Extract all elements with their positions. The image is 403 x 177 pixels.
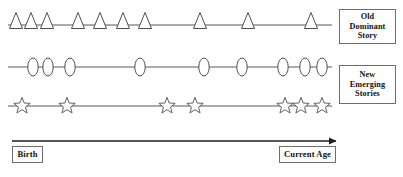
narrative-timeline-diagram: Old Dominant Story New Emerging Stories … (0, 0, 403, 177)
marker-triangle-old-dominant-story-9 (242, 13, 255, 29)
label-current-age: Current Age (279, 146, 336, 163)
label-current-age-text: Current Age (284, 149, 331, 159)
marker-star-emerging-stories-stars-4 (187, 97, 203, 113)
marker-star-emerging-stories-stars-1 (14, 97, 30, 113)
timeline-row-emerging-stories-stars (8, 97, 332, 113)
marker-triangle-old-dominant-story-7 (139, 13, 152, 29)
timeline-row-new-emerging-stories (8, 58, 332, 76)
marker-triangle-old-dominant-story-6 (117, 13, 130, 29)
marker-oval-new-emerging-stories-4 (135, 58, 145, 76)
marker-oval-new-emerging-stories-6 (237, 58, 247, 76)
label-new-emerging-stories: New Emerging Stories (339, 65, 396, 104)
marker-triangle-old-dominant-story-1 (10, 13, 23, 29)
label-old-dominant-story: Old Dominant Story (339, 9, 396, 44)
marker-oval-new-emerging-stories-9 (317, 58, 327, 76)
marker-triangle-old-dominant-story-4 (72, 13, 85, 29)
marker-star-emerging-stories-stars-5 (277, 97, 293, 113)
label-new-emerging-stories-line-2: Emerging (350, 80, 385, 90)
label-old-dominant-story-line-2: Dominant (350, 22, 386, 32)
marker-oval-new-emerging-stories-2 (43, 58, 53, 76)
marker-triangle-old-dominant-story-5 (94, 13, 107, 29)
marker-star-emerging-stories-stars-2 (59, 97, 75, 113)
label-birth-text: Birth (17, 149, 37, 159)
label-new-emerging-stories-line-3: Stories (355, 89, 380, 99)
marker-star-emerging-stories-stars-6 (293, 97, 309, 113)
marker-triangle-old-dominant-story-8 (194, 13, 207, 29)
label-old-dominant-story-line-1: Old (361, 12, 375, 22)
marker-triangle-old-dominant-story-10 (305, 13, 318, 29)
timeline-row-old-dominant-story (8, 13, 332, 29)
marker-star-emerging-stories-stars-7 (314, 97, 330, 113)
marker-oval-new-emerging-stories-7 (278, 58, 288, 76)
marker-star-emerging-stories-stars-3 (159, 97, 175, 113)
marker-triangle-old-dominant-story-3 (41, 13, 54, 29)
label-new-emerging-stories-line-1: New (360, 70, 376, 80)
marker-oval-new-emerging-stories-3 (65, 58, 75, 76)
marker-oval-new-emerging-stories-1 (28, 58, 38, 76)
label-birth: Birth (12, 146, 43, 163)
label-old-dominant-story-line-3: Story (358, 31, 378, 41)
marker-triangle-old-dominant-story-2 (25, 13, 38, 29)
marker-oval-new-emerging-stories-5 (199, 58, 209, 76)
marker-oval-new-emerging-stories-8 (300, 58, 310, 76)
